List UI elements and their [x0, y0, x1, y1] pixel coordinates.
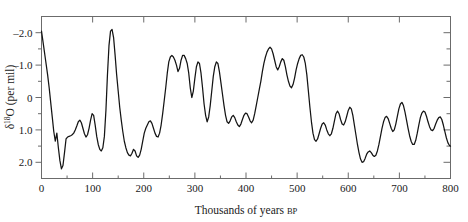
x-tick-label: 700 [391, 182, 408, 194]
figure-container: 0100200300400500600700800 –2.0–1.001.02.… [0, 0, 468, 222]
y-tick-label: 1.0 [19, 124, 33, 136]
x-tick-label: 300 [187, 182, 204, 194]
x-tick-label: 500 [289, 182, 306, 194]
y-tick-label: 0 [27, 92, 33, 104]
x-tick-label: 100 [84, 182, 101, 194]
x-tick-label: 200 [136, 182, 153, 194]
oxygen-isotope-line-chart: 0100200300400500600700800 –2.0–1.001.02.… [0, 0, 468, 222]
x-tick-label: 400 [238, 182, 255, 194]
x-tick-label: 0 [39, 182, 45, 194]
y-tick-label: –2.0 [12, 27, 33, 39]
x-tick-label: 600 [340, 182, 357, 194]
x-axis-title: Thousands of years BP [195, 204, 298, 217]
y-tick-label: 2.0 [19, 156, 33, 168]
x-tick-label: 800 [442, 182, 459, 194]
